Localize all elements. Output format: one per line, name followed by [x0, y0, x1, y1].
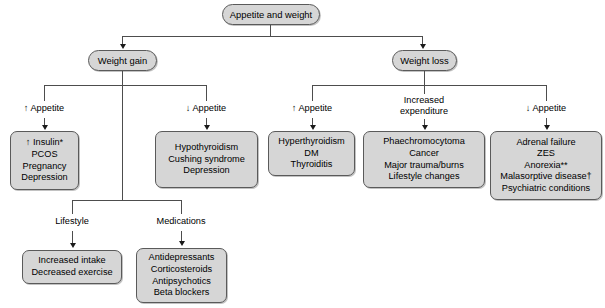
node-weight-loss: Weight loss: [392, 50, 457, 71]
label-loss-decreased-appetite: ↓ Appetite: [526, 103, 566, 114]
cause-item: Malasorptive disease†: [500, 171, 591, 183]
connector-weight-gain-center-stem: [122, 85, 123, 200]
node-label: Weight gain: [98, 55, 147, 67]
connector-weight-loss-stem: [424, 71, 425, 85]
node-label: Appetite and weight: [230, 9, 312, 21]
cause-item: Major trauma/burns: [384, 160, 464, 172]
label-gain-increased-appetite: ↑ Appetite: [24, 103, 64, 114]
node-appetite-and-weight: Appetite and weight: [222, 4, 320, 25]
connector-gain-increased-appetite: [44, 85, 45, 101]
label-lifestyle: Lifestyle: [55, 216, 89, 227]
connector-gain-decreased-appetite: [206, 85, 207, 101]
cause-item: Lifestyle changes: [389, 171, 460, 183]
label-medications: Medications: [156, 216, 205, 227]
connector-loss-decreased-appetite: [546, 85, 547, 101]
cause-item: Cushing syndrome: [168, 154, 245, 166]
box-medications-causes: Antidepressants Corticosteroids Antipsyc…: [136, 248, 227, 303]
node-label: Weight loss: [400, 55, 448, 67]
node-weight-gain: Weight gain: [88, 50, 157, 71]
connector-loss-increased-expenditure: [424, 85, 425, 94]
arrowhead-gain-increased-appetite: [42, 125, 48, 130]
label-line-1: Increased: [404, 95, 444, 105]
cause-item: Antidepressants: [149, 252, 215, 264]
cause-item: Increased intake: [38, 255, 105, 267]
box-gain-increased-appetite-causes: ↑ Insulin* PCOS Pregnancy Depression: [10, 131, 79, 190]
arrowhead-gain-decreased-appetite: [204, 125, 210, 130]
cause-item: ZES: [537, 148, 555, 160]
cause-item: Anorexia**: [524, 160, 567, 172]
arrowhead-loss-increased-appetite: [310, 125, 316, 130]
cause-item: Adrenal failure: [516, 137, 575, 149]
label-loss-increased-appetite: ↑ Appetite: [292, 103, 332, 114]
label-gain-decreased-appetite: ↓ Appetite: [186, 103, 226, 114]
arrowhead-medications: [179, 241, 185, 246]
cause-item: Decreased exercise: [31, 267, 112, 279]
cause-item: ↑ Insulin*: [26, 137, 63, 149]
connector-drop-lifestyle: [72, 200, 73, 214]
label-loss-increased-expenditure: Increased expenditure: [384, 95, 464, 116]
cause-item: Antipsychotics: [152, 276, 211, 288]
arrowhead-weight-gain: [120, 44, 126, 49]
box-gain-decreased-appetite-causes: Hypothyroidism Cushing syndrome Depressi…: [155, 131, 258, 188]
cause-item: Beta blockers: [154, 287, 210, 299]
cause-item: DM: [304, 148, 318, 160]
cause-item: Cancer: [409, 148, 439, 160]
arrowhead-loss-increased-expenditure: [422, 125, 428, 130]
box-lifestyle-causes: Increased intake Decreased exercise: [22, 250, 122, 284]
connector-weight-gain-stem: [122, 71, 123, 85]
connector-root-stem: [270, 25, 271, 36]
label-line-2: expenditure: [400, 106, 448, 116]
cause-item: Thyroiditis: [291, 159, 333, 171]
cause-item: Depression: [21, 172, 67, 184]
box-loss-increased-appetite-causes: Hyperthyroidism DM Thyroiditis: [268, 131, 355, 176]
arrowhead-lifestyle: [70, 243, 76, 248]
cause-item: Phaechromocytoma: [383, 136, 465, 148]
box-loss-decreased-appetite-causes: Adrenal failure ZES Anorexia** Malasorpt…: [490, 131, 602, 200]
box-loss-increased-expenditure-causes: Phaechromocytoma Cancer Major trauma/bur…: [363, 131, 485, 188]
cause-item: Pregnancy: [23, 161, 67, 173]
cause-item: PCOS: [31, 149, 57, 161]
flowchart-appetite-and-weight: Appetite and weight Weight gain ↑ Appeti…: [0, 0, 605, 308]
cause-item: Depression: [183, 165, 229, 177]
connector-lifestyle-medications-bar: [72, 200, 182, 201]
cause-item: Corticosteroids: [151, 264, 212, 276]
cause-item: Psychiatric conditions: [502, 183, 590, 195]
arrowhead-loss-decreased-appetite: [544, 125, 550, 130]
connector-root-split-bar: [122, 36, 422, 37]
connector-loss-increased-appetite: [312, 85, 313, 101]
cause-item: Hyperthyroidism: [278, 136, 344, 148]
connector-drop-medications: [181, 200, 182, 214]
connector-weight-gain-split-bar: [44, 85, 206, 86]
arrowhead-weight-loss: [420, 44, 426, 49]
cause-item: Hypothyroidism: [175, 142, 238, 154]
connector-weight-loss-split-bar: [312, 85, 546, 86]
